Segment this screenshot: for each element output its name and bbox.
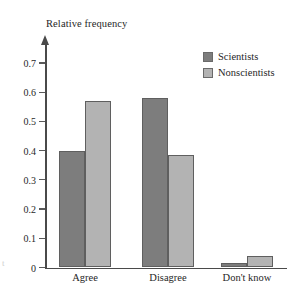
y-axis-tick (39, 62, 45, 63)
y-axis-tick (39, 179, 45, 180)
x-axis-line (45, 268, 287, 270)
y-axis-tick-label: 0.7 (2, 58, 36, 69)
y-axis-line (45, 44, 47, 269)
x-axis-category-label: Agree (72, 272, 98, 283)
y-axis-tick (39, 121, 45, 122)
y-axis-tick (39, 92, 45, 93)
legend: ScientistsNonscientists (203, 50, 275, 82)
y-axis-arrow-icon (41, 35, 49, 45)
y-axis-tick (39, 150, 45, 151)
bar-scientists-agree (59, 151, 85, 268)
legend-swatch-icon (203, 68, 213, 78)
bar-chart: Relative frequency 00.10.20.30.40.50.60.… (0, 0, 297, 301)
scan-edge-artifact: t (2, 258, 5, 268)
legend-label: Nonscientists (218, 68, 275, 79)
bar-nonscientists-disagree (168, 155, 194, 267)
legend-item-nonscientists: Nonscientists (203, 66, 275, 80)
x-axis-category-label: Don't know (223, 272, 272, 283)
y-axis-tick-label: 0.5 (2, 116, 36, 127)
plot-area: 00.10.20.30.40.50.60.7 AgreeDisagreeDon'… (0, 0, 297, 301)
legend-item-scientists: Scientists (203, 50, 275, 64)
y-axis-tick-label: 0 (2, 262, 36, 273)
y-axis-tick-label: 0.6 (2, 87, 36, 98)
bar-nonscientists-don-t-know (247, 256, 273, 268)
legend-label: Scientists (218, 52, 258, 63)
y-axis-tick-label: 0.2 (2, 204, 36, 215)
bar-scientists-don-t-know (221, 263, 247, 267)
y-axis-tick-label: 0.3 (2, 174, 36, 185)
bar-scientists-disagree (142, 98, 168, 267)
bar-nonscientists-agree (85, 101, 111, 268)
y-axis-tick (39, 267, 45, 268)
x-axis-category-label: Disagree (149, 272, 186, 283)
y-axis-tick (39, 208, 45, 209)
y-axis-tick (39, 238, 45, 239)
y-axis-tick-label: 0.4 (2, 145, 36, 156)
y-axis-tick-label: 0.1 (2, 233, 36, 244)
legend-swatch-icon (203, 52, 213, 62)
